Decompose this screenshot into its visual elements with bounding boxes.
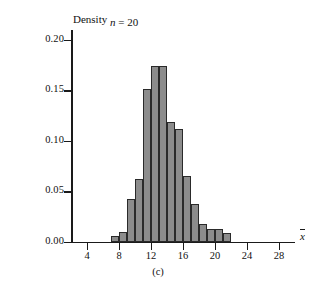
histogram-figure: Density x n = 20 0.000.050.100.150.20 48… [0,0,316,291]
x-tick [247,243,248,250]
y-axis-title: Density [73,13,107,25]
sample-size-annotation: n = 20 [110,16,138,28]
x-tick [151,243,152,250]
x-tick-label: 28 [269,250,289,261]
histogram-bar [191,204,199,241]
histogram-bar [199,224,207,241]
histogram-bar [135,179,143,241]
x-tick [279,243,280,250]
n-value: = 20 [118,16,138,28]
histogram-bars [71,30,295,242]
histogram-bar [223,233,231,241]
histogram-bar [183,176,191,241]
y-tick [64,242,72,243]
x-tick-label: 24 [237,250,257,261]
x-tick-label: 16 [173,250,193,261]
histogram-bar [143,89,151,241]
y-tick-label: 0.20 [45,33,64,44]
histogram-bar [119,232,127,241]
x-tick [215,243,216,250]
histogram-bar [167,122,175,242]
histogram-bar [127,199,135,241]
figure-caption: (c) [0,266,316,277]
x-tick [87,243,88,250]
x-axis-title: x [300,230,305,242]
y-tick-label: 0.05 [45,184,64,195]
y-tick-label: 0.00 [45,235,64,246]
y-tick-label: 0.15 [45,83,64,94]
x-tick-label: 8 [109,250,129,261]
histogram-bar [151,66,159,241]
histogram-bar [215,229,223,241]
x-tick-label: 12 [141,250,161,261]
x-bar-symbol: x [300,230,305,242]
n-symbol: n [110,16,116,28]
y-tick-label: 0.10 [45,134,64,145]
x-tick-label: 4 [77,250,97,261]
histogram-bar [159,66,167,241]
x-tick-label: 20 [205,250,225,261]
x-tick [119,243,120,250]
x-tick [183,243,184,250]
histogram-bar [175,129,183,242]
histogram-bar [207,229,215,241]
histogram-bar [111,236,119,241]
